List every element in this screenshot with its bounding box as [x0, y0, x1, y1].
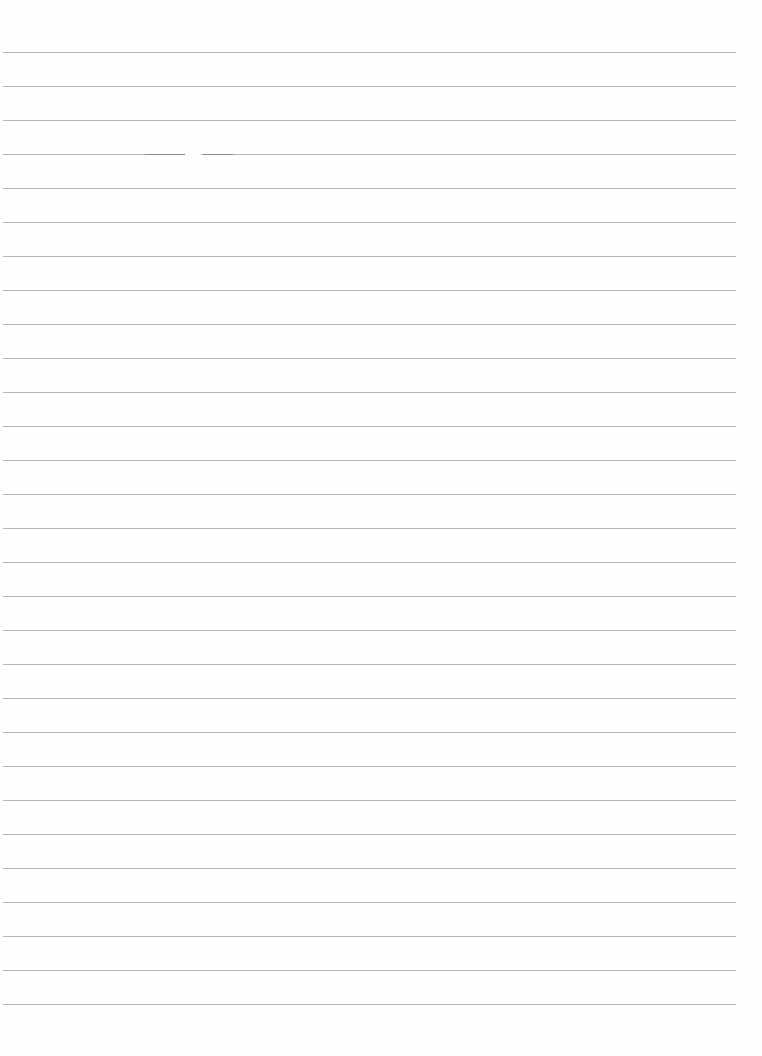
ruled-line [3, 562, 736, 563]
ruled-line [3, 970, 736, 971]
ruled-line [3, 494, 736, 495]
line-mark [145, 154, 185, 155]
ruled-line [3, 664, 736, 665]
lined-paper-page [0, 0, 762, 1056]
ruled-line [3, 596, 736, 597]
ruled-line [3, 868, 736, 869]
ruled-line [3, 936, 736, 937]
ruled-line [3, 154, 736, 155]
ruled-line [3, 324, 736, 325]
ruled-line [3, 120, 736, 121]
ruled-line [3, 222, 736, 223]
ruled-line [3, 460, 736, 461]
ruled-line [3, 426, 736, 427]
line-mark [203, 154, 233, 155]
ruled-line [3, 800, 736, 801]
ruled-line [3, 766, 736, 767]
ruled-line [3, 834, 736, 835]
ruled-line [3, 698, 736, 699]
ruled-line [3, 902, 736, 903]
ruled-line [3, 528, 736, 529]
ruled-line [3, 256, 736, 257]
ruled-line [3, 188, 736, 189]
ruled-line [3, 86, 736, 87]
ruled-line [3, 630, 736, 631]
ruled-line [3, 358, 736, 359]
ruled-line [3, 732, 736, 733]
line-gap [185, 153, 201, 155]
ruled-line [3, 290, 736, 291]
ruled-line [3, 392, 736, 393]
ruled-line [3, 1004, 736, 1005]
ruled-line [3, 52, 736, 53]
